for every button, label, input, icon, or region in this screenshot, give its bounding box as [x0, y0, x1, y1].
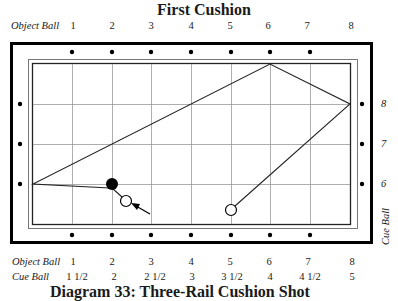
bottom-value: 4 — [267, 271, 272, 283]
bottom-value: 2 1/2 — [144, 271, 165, 283]
cue-ball-start — [121, 196, 132, 207]
diamonds — [18, 50, 364, 237]
right-tick: 7 — [381, 138, 386, 150]
bottom-value: 7 — [305, 256, 310, 268]
bottom-row-label: Object Ball — [12, 256, 60, 268]
cushion-outer-line — [29, 60, 358, 229]
bottom-value: 3 — [148, 256, 153, 268]
bottom-value: 2 — [109, 256, 114, 268]
table-grid — [33, 64, 350, 224]
bottom-value: 8 — [349, 256, 354, 268]
bottom-value: 6 — [266, 256, 271, 268]
bottom-value: 3 1/2 — [221, 271, 242, 283]
arrow-icon — [131, 203, 150, 214]
diagram-caption: Diagram 33: Three-Rail Cushion Shot — [50, 283, 310, 301]
right-axis-label: Cue Ball — [380, 208, 391, 245]
bottom-value: 3 — [189, 271, 194, 283]
bottom-row-label: Cue Ball — [12, 271, 49, 283]
bottom-value: 2 — [111, 271, 116, 283]
bottom-value: 1 — [70, 256, 75, 268]
right-tick: 8 — [381, 98, 386, 110]
object-ball — [106, 178, 118, 190]
bottom-value: 4 — [188, 256, 193, 268]
right-tick: 6 — [381, 178, 386, 190]
bottom-value: 1 1/2 — [66, 271, 87, 283]
cue-ball-end — [226, 205, 237, 216]
bottom-value: 5 — [227, 256, 232, 268]
bottom-value: 4 1/2 — [299, 271, 320, 283]
bottom-value: 5 — [349, 271, 354, 283]
